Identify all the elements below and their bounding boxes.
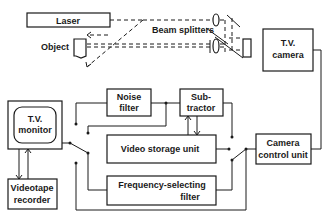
tv-camera-label-2: camera xyxy=(272,50,305,60)
tv-camera-label-1: T.V. xyxy=(281,38,296,48)
frequency-selecting-filter-box: Frequency-selecting filter xyxy=(107,176,216,205)
noise-filter-label-2: filter xyxy=(119,103,139,113)
video-storage-unit-box: Video storage unit xyxy=(107,135,216,163)
frequency-selecting-filter-label-2: filter xyxy=(180,192,200,202)
noise-filter-box: Noise filter xyxy=(107,89,151,116)
block-diagram: Laser Object Beam splitters T.V. camera … xyxy=(0,0,331,217)
tv-monitor-label-1: T.V. xyxy=(28,114,43,124)
subtractor-label-2: tractor xyxy=(187,103,216,113)
object-label: Object xyxy=(41,42,69,52)
subtractor-box: Sub- tractor xyxy=(180,89,223,116)
laser-box: Laser xyxy=(27,13,110,27)
videotape-recorder-label-2: recorder xyxy=(14,195,51,205)
noise-filter-label-1: Noise xyxy=(117,92,142,102)
tv-monitor-label-2: monitor xyxy=(18,125,52,135)
lens-lower xyxy=(210,39,219,53)
videotape-recorder-label-1: Videotape xyxy=(11,183,54,193)
videotape-recorder-box: Videotape recorder xyxy=(8,179,57,209)
tv-camera-box: T.V. camera xyxy=(243,29,313,71)
frequency-selecting-filter-label-1: Frequency-selecting xyxy=(118,180,206,190)
tv-monitor-box: T.V. monitor xyxy=(8,101,62,149)
beam-splitters-label: Beam splitters xyxy=(152,25,214,35)
video-storage-unit-label: Video storage unit xyxy=(121,144,199,154)
camera-control-unit-label-1: Camera xyxy=(266,138,300,148)
object-box: Object xyxy=(41,39,86,58)
camera-control-unit-box: Camera control unit xyxy=(256,134,311,164)
camera-control-unit-label-2: control unit xyxy=(258,150,308,160)
subtractor-label-1: Sub- xyxy=(191,92,211,102)
laser-label: Laser xyxy=(56,16,81,26)
